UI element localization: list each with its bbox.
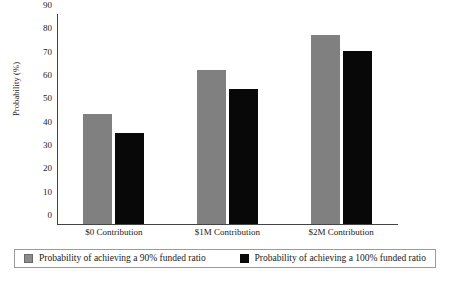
x-axis-tick-label: $1M Contribution xyxy=(195,228,260,237)
legend-entry[interactable]: Probability of achieving a 90% funded ra… xyxy=(24,254,206,264)
y-axis-tick-label: 20 xyxy=(43,164,52,173)
y-axis-tick-label: 80 xyxy=(43,24,52,33)
legend-entry[interactable]: Probability of achieving a 100% funded r… xyxy=(240,254,426,264)
bar xyxy=(311,35,340,224)
plot-area: 9080706050403020100 $0 Contribution$1M C… xyxy=(57,14,398,225)
y-axis-tick-label: 60 xyxy=(43,71,52,80)
y-axis-tick-label: 0 xyxy=(48,211,53,220)
y-axis-title: Probability (%) xyxy=(11,29,21,149)
x-axis-tick-label: $2M Contribution xyxy=(309,228,374,237)
y-axis-tick-label: 10 xyxy=(43,187,52,196)
bar-chart-figure: Probability (%) 9080706050403020100 $0 C… xyxy=(0,0,456,281)
bar xyxy=(115,133,144,224)
legend-label: Probability of achieving a 90% funded ra… xyxy=(39,254,206,264)
y-axis-tick-label: 90 xyxy=(43,1,52,10)
bar xyxy=(197,70,226,224)
bar xyxy=(83,114,112,224)
bar xyxy=(229,89,258,224)
legend-swatch-icon xyxy=(240,254,249,263)
chart-legend: Probability of achieving a 90% funded ra… xyxy=(14,249,436,268)
x-axis-tick-label: $0 Contribution xyxy=(85,228,142,237)
legend-label: Probability of achieving a 100% funded r… xyxy=(255,254,426,264)
y-axis-tick-label: 30 xyxy=(43,141,52,150)
y-axis-tick-label: 70 xyxy=(43,47,52,56)
y-axis-tick-label: 50 xyxy=(43,94,52,103)
y-axis-line xyxy=(57,14,58,225)
x-axis-line xyxy=(57,224,398,225)
y-axis-tick-label: 40 xyxy=(43,117,52,126)
legend-swatch-icon xyxy=(24,254,33,263)
bar xyxy=(343,51,372,224)
